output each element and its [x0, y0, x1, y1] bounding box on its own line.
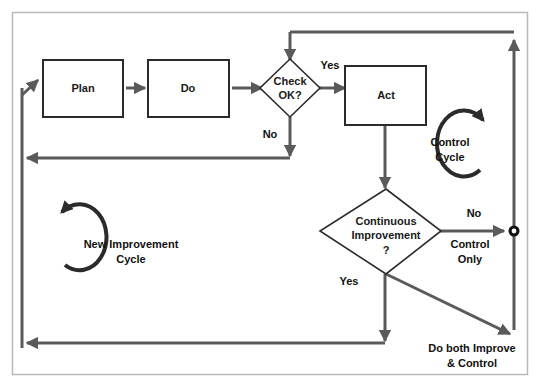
edge-label-continuous-no: No	[467, 207, 482, 219]
edge-label-check-no: No	[263, 128, 278, 140]
node-check-label-line2: OK?	[278, 89, 302, 101]
edge-label-check-yes: Yes	[321, 59, 340, 71]
node-plan-label: Plan	[71, 82, 95, 94]
edge-left-riser-into-plan	[22, 80, 38, 95]
node-continuous-label-line3: ?	[383, 244, 390, 256]
annotation-control-cycle-line2: Cycle	[435, 151, 464, 163]
node-do-label: Do	[181, 82, 196, 94]
edge-do-both-diagonal	[386, 274, 510, 334]
edge-label-control-only-line2: Only	[458, 253, 483, 265]
annotation-new-improvement-line1: New Improvement	[84, 238, 179, 250]
node-continuous-label-line1: Continuous	[355, 215, 416, 227]
annotation-new-improvement-line2: Cycle	[116, 253, 145, 265]
junction-node-hole	[512, 229, 517, 234]
edge-label-do-both-line1: Do both Improve	[428, 342, 515, 354]
edge-label-control-only-line1: Control	[450, 238, 489, 250]
node-check-label-line1: Check	[273, 75, 307, 87]
node-act-label: Act	[377, 89, 395, 101]
node-continuous-label-line2: Improvement	[351, 229, 420, 241]
edge-label-do-both-line2: & Control	[447, 357, 497, 369]
edge-label-continuous-yes: Yes	[340, 275, 359, 287]
flowchart-canvas: Plan Do Check OK? Act Continuous Improve…	[0, 0, 540, 388]
annotation-control-cycle-line1: Control	[430, 136, 469, 148]
flowchart-svg: Plan Do Check OK? Act Continuous Improve…	[0, 0, 540, 388]
